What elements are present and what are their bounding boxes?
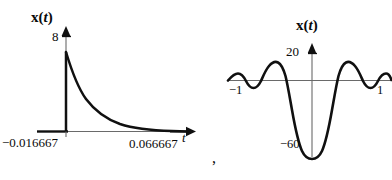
right-x-tick-label-right: 1 (377, 84, 383, 97)
right-y-tick-label-neg60: −60 (280, 138, 300, 151)
right-y-tick-label-20: 20 (286, 45, 299, 58)
left-x-tick-label-left: −0.016667 (2, 136, 58, 149)
right-y-axis-title: x(t) (296, 18, 318, 33)
left-panel-group (37, 26, 196, 137)
left-exponential-curve (66, 52, 187, 131)
left-x-tick-label-right: 0.066667 (129, 137, 178, 150)
figure-root: x(t) 8 −0.016667 0.066667 t , x(t) 20 −1… (0, 0, 392, 180)
left-y-axis-title: x(t) (31, 10, 53, 25)
left-y-axis-arrowhead (62, 26, 71, 36)
right-panel-group (228, 43, 392, 159)
left-y-tick-label-8: 8 (52, 30, 59, 43)
right-y-axis-arrowhead (308, 43, 316, 53)
left-x-axis-title: t (182, 131, 186, 144)
right-sinc-curve (228, 62, 392, 159)
right-x-tick-label-left: −1 (229, 84, 242, 97)
plots-canvas (0, 0, 392, 180)
panel-separator-comma: , (212, 150, 216, 166)
